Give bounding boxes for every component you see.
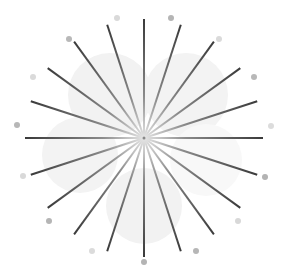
outer-dot <box>141 259 147 265</box>
outer-dot <box>30 74 36 80</box>
outer-dot <box>193 248 199 254</box>
starburst-diagram <box>0 0 282 272</box>
outer-dot <box>168 15 174 21</box>
outer-dot <box>268 123 274 129</box>
starburst-canvas <box>0 0 282 272</box>
outer-dot <box>235 218 241 224</box>
background-blob <box>170 124 242 196</box>
outer-dot <box>89 248 95 254</box>
background-blob <box>42 117 118 193</box>
outer-dot <box>46 218 52 224</box>
outer-dot <box>251 74 257 80</box>
outer-dot <box>20 173 26 179</box>
outer-dot <box>262 174 268 180</box>
outer-dot <box>66 36 72 42</box>
center-point <box>143 137 146 140</box>
outer-dot <box>14 122 20 128</box>
outer-dot <box>216 36 222 42</box>
outer-dot <box>114 15 120 21</box>
background-blobs <box>42 53 242 244</box>
